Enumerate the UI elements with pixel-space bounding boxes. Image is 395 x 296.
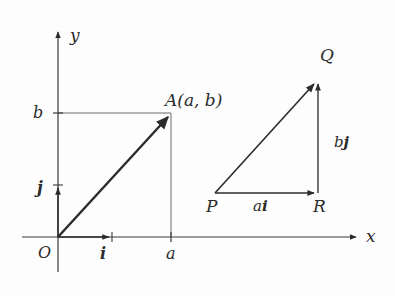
origin-label: O (38, 245, 51, 261)
y-tick-label-b: b (33, 105, 43, 121)
y-axis-label: y (70, 27, 80, 44)
component-pr-scalar: a (253, 197, 262, 215)
component-rq-scalar: b (334, 133, 344, 151)
x-axis-label: x (366, 228, 376, 245)
component-rq-unit: j (344, 133, 349, 151)
component-pr-unit: i (262, 197, 268, 215)
component-pr-label: ai (253, 199, 268, 214)
point-a-label: A(a, b) (165, 92, 222, 109)
unit-vector-i-label: i (100, 246, 106, 262)
point-r-label: R (313, 198, 326, 215)
point-q-label: Q (320, 47, 334, 64)
unit-vector-j-label: j (37, 180, 43, 196)
x-tick-label-a: a (166, 246, 176, 262)
resultant-vector-pq-arrow (215, 84, 314, 193)
component-rq-label: bj (334, 135, 349, 150)
point-p-label: P (206, 198, 217, 215)
position-vector-oa-arrow (58, 117, 168, 237)
vector-diagram-figure: y x O b a i j A(a, b) P Q R ai bj (0, 0, 395, 296)
